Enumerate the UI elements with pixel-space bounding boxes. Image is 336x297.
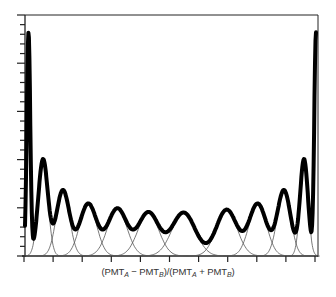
x-axis-ticks bbox=[24, 256, 315, 262]
histogram-line bbox=[25, 32, 316, 243]
x-axis-label: (PMTA − PMTB)/(PMTA + PMTB) bbox=[0, 266, 336, 278]
peak-fit bbox=[137, 213, 230, 256]
histogram-chart bbox=[0, 0, 336, 297]
peak-fit bbox=[223, 204, 292, 256]
